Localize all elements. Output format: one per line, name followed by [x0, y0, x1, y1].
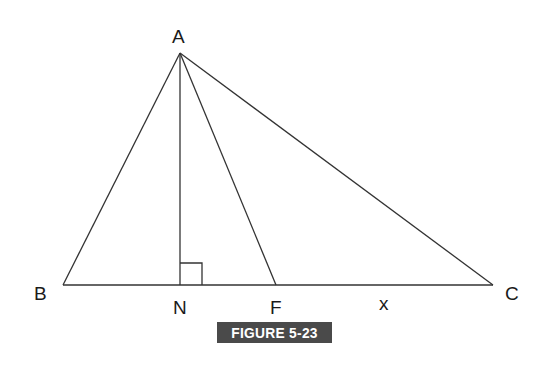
- segment-ac: [180, 53, 493, 285]
- figure-caption: FIGURE 5-23: [217, 322, 332, 343]
- right-angle-marker: [180, 263, 202, 285]
- point-label-c: C: [505, 283, 519, 304]
- segment-fc-label: x: [379, 293, 389, 314]
- segment-ab: [63, 53, 180, 285]
- point-label-n: N: [173, 297, 187, 318]
- point-label-f: F: [270, 297, 282, 318]
- point-label-b: B: [34, 283, 47, 304]
- point-label-a: A: [172, 26, 185, 47]
